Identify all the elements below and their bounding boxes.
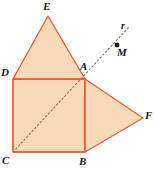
figure-canvas: E D A C B F M r [0, 0, 154, 171]
vertex-label-D: D [1, 67, 9, 78]
vertex-label-B: B [79, 156, 86, 167]
vertex-label-C: C [2, 155, 9, 166]
vertex-label-A: A [80, 61, 87, 72]
triangle-ABF-shape [85, 79, 143, 152]
vertex-label-F: F [145, 110, 152, 121]
line-label-r: r [121, 21, 125, 31]
point-label-M: M [117, 47, 127, 58]
geometry-figure [0, 0, 154, 171]
triangle-DEA-shape [13, 16, 85, 79]
vertex-label-E: E [43, 1, 50, 12]
square-CBAD-shape [13, 79, 85, 152]
